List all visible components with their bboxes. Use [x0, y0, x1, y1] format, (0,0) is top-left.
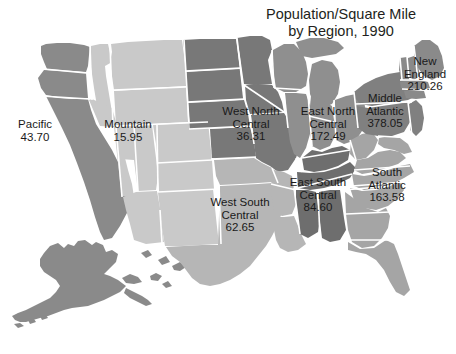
state-connecticut-rhode-island	[404, 90, 426, 99]
state-montana	[110, 40, 186, 90]
us-region-map	[0, 0, 456, 354]
state-nebraska	[188, 100, 250, 129]
state-alaska-inset	[12, 240, 126, 322]
state-north-dakota	[183, 39, 240, 71]
alaska-southeast-panhandle	[124, 288, 152, 306]
state-michigan-upper	[296, 38, 344, 58]
state-indiana	[309, 96, 336, 150]
state-kansas	[210, 127, 256, 159]
state-wyoming	[114, 87, 188, 126]
state-new-mexico	[158, 189, 219, 246]
state-oregon	[38, 70, 88, 98]
state-arizona	[123, 191, 164, 244]
state-florida	[348, 240, 410, 296]
state-washington	[41, 43, 90, 72]
state-alabama	[318, 190, 346, 242]
state-colorado-south-fill	[157, 160, 214, 192]
population-density-map-figure: Population/Square Mile by Region, 1990	[0, 0, 456, 354]
state-south-dakota	[186, 69, 244, 102]
